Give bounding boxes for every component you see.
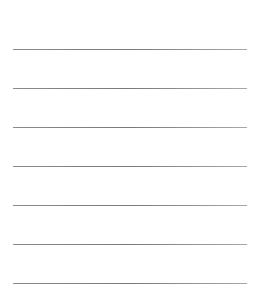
ruled-line-4 <box>13 166 247 167</box>
ruled-line-7 <box>13 283 247 284</box>
ruled-line-2 <box>13 88 247 89</box>
ruled-line-1 <box>13 49 247 50</box>
ruled-line-6 <box>13 244 247 245</box>
ruled-line-3 <box>13 127 247 128</box>
ruled-line-5 <box>13 205 247 206</box>
